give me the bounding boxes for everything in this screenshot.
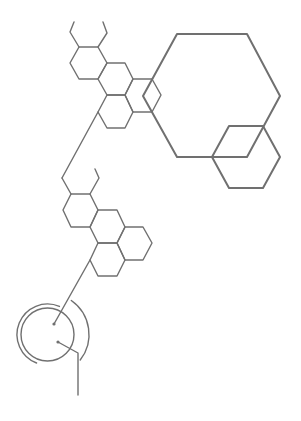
hex-large <box>143 34 280 157</box>
stub-left <box>62 178 71 194</box>
stub-top-right <box>98 22 107 47</box>
stub-right <box>90 169 99 194</box>
hex-d <box>98 95 133 128</box>
large-hexagons <box>143 34 280 188</box>
lower-fused-rings <box>62 169 152 276</box>
bond-connectors <box>54 112 98 324</box>
outer-left-arc <box>17 304 59 363</box>
tail-line <box>58 342 78 395</box>
hex-h <box>90 243 125 276</box>
inner-circle <box>21 308 74 361</box>
circle-symbol <box>17 301 89 395</box>
bond-upper-to-lower <box>62 112 98 178</box>
dot-2 <box>56 340 59 343</box>
stub-top-left <box>70 22 79 47</box>
upper-fused-rings <box>70 22 161 128</box>
diagram-canvas: Molecular hexagon structure diagram <box>0 0 301 421</box>
hexagon-diagram: Molecular hexagon structure diagram <box>0 0 301 421</box>
dot-1 <box>52 322 55 325</box>
